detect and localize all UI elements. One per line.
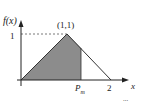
x-tick-label-2: 2 xyxy=(107,84,112,93)
y-axis-arrow-icon xyxy=(19,20,24,27)
peak-point-label: (1,1) xyxy=(57,21,74,30)
y-axis-label: f(x) xyxy=(3,16,17,26)
y-tick-label-1: 1 xyxy=(10,32,15,41)
pm-tick-label: Pm xyxy=(75,84,85,95)
x-axis-label: x xyxy=(131,82,135,91)
triangular-distribution-figure: f(x) 1 (1,1) Pm 2 x ... xyxy=(0,0,143,102)
pm-subscript: m xyxy=(81,89,85,95)
plot-canvas xyxy=(0,0,143,102)
corner-fragment-text: ... xyxy=(123,96,128,102)
x-axis-arrow-icon xyxy=(122,78,129,83)
shaded-area xyxy=(21,34,81,80)
